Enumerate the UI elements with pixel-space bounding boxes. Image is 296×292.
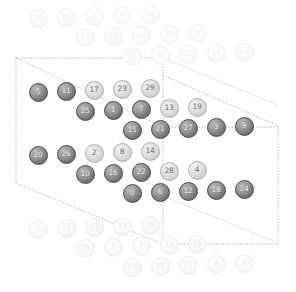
lattice-node-16: 16: [104, 164, 123, 183]
lattice-node-13: 13: [160, 236, 179, 255]
lattice-node-label: 26: [61, 13, 70, 20]
lattice-node-28: 28: [160, 25, 179, 44]
lattice-node-8: 8: [113, 143, 132, 162]
lattice-node-label: 13: [164, 104, 173, 112]
lattice-node-10: 10: [76, 28, 95, 47]
lattice-node-label: 10: [80, 33, 89, 41]
lattice-node-6: 6: [151, 183, 170, 202]
lattice-node-label: 0: [130, 189, 135, 197]
lattice-node-label: 15: [127, 126, 136, 134]
lattice-node-label: 23: [117, 222, 126, 230]
lattice-node-label: 22: [136, 168, 145, 176]
lattice-node-label: 24: [239, 185, 248, 193]
lattice-node-label: 28: [164, 167, 173, 175]
lattice-node-4: 4: [188, 161, 207, 180]
lattice-node-label: 29: [145, 221, 154, 229]
lattice-node-29: 29: [141, 216, 160, 235]
lattice-node-3: 3: [207, 118, 226, 137]
lattice-node-label: 14: [145, 147, 154, 155]
lattice-node-29: 29: [141, 79, 160, 98]
lattice-node-14: 14: [141, 142, 160, 161]
lattice-node-label: 3: [214, 260, 219, 268]
lattice-node-21: 21: [151, 120, 170, 139]
lattice-node-14: 14: [141, 5, 160, 24]
lattice-node-label: 5: [36, 225, 41, 233]
lattice-node-2: 2: [85, 144, 104, 163]
lattice-node-18: 18: [207, 44, 226, 63]
lattice-node-label: 8: [120, 11, 125, 18]
lattice-node-label: 24: [239, 48, 248, 56]
lattice-node-9: 9: [235, 254, 254, 273]
lattice-diagram-canvas: 2026281410162228406121824511172329251713…: [0, 0, 296, 292]
lattice-node-8: 8: [113, 6, 132, 25]
lattice-node-24: 24: [235, 180, 254, 199]
lattice-node-21: 21: [151, 257, 170, 276]
lattice-node-20: 20: [29, 146, 48, 165]
lattice-node-4: 4: [188, 24, 207, 43]
lattice-node-5: 5: [29, 220, 48, 239]
node-layer: 2026281410162228406121824511172329251713…: [0, 0, 296, 292]
lattice-node-label: 20: [33, 14, 42, 21]
lattice-node-label: 28: [164, 30, 173, 38]
lattice-node-label: 18: [211, 186, 220, 194]
lattice-node-label: 27: [183, 124, 192, 132]
lattice-node-label: 23: [117, 85, 126, 93]
lattice-node-label: 1: [111, 106, 116, 114]
lattice-node-19: 19: [188, 98, 207, 117]
lattice-node-11: 11: [57, 82, 76, 101]
lattice-node-label: 5: [36, 88, 41, 96]
lattice-node-20: 20: [29, 9, 48, 28]
lattice-node-17: 17: [85, 81, 104, 100]
lattice-node-22: 22: [132, 163, 151, 182]
lattice-node-19: 19: [188, 235, 207, 254]
lattice-node-label: 27: [183, 261, 192, 269]
lattice-node-label: 22: [136, 31, 145, 39]
lattice-node-label: 2: [92, 149, 97, 157]
lattice-node-label: 25: [80, 107, 89, 115]
lattice-node-label: 12: [183, 187, 192, 195]
lattice-node-6: 6: [151, 46, 170, 65]
lattice-node-label: 11: [61, 87, 70, 95]
lattice-node-label: 4: [195, 29, 200, 37]
lattice-node-label: 19: [192, 240, 201, 248]
lattice-node-label: 29: [145, 84, 154, 92]
lattice-node-label: 6: [158, 51, 163, 59]
lattice-node-24: 24: [235, 43, 254, 62]
lattice-node-12: 12: [179, 45, 198, 64]
lattice-node-label: 9: [242, 122, 247, 130]
lattice-node-15: 15: [123, 258, 142, 277]
lattice-node-label: 15: [127, 263, 136, 271]
lattice-node-27: 27: [179, 256, 198, 275]
lattice-node-label: 4: [195, 166, 200, 174]
lattice-node-label: 19: [192, 103, 201, 111]
lattice-node-label: 3: [214, 123, 219, 131]
lattice-node-17: 17: [85, 218, 104, 237]
lattice-node-1: 1: [104, 101, 123, 120]
lattice-node-16: 16: [104, 27, 123, 46]
lattice-node-5: 5: [29, 83, 48, 102]
lattice-node-label: 12: [183, 50, 192, 58]
lattice-node-25: 25: [76, 239, 95, 258]
lattice-node-label: 25: [80, 244, 89, 252]
lattice-node-26: 26: [57, 8, 76, 27]
lattice-node-label: 0: [130, 52, 135, 60]
lattice-node-18: 18: [207, 181, 226, 200]
lattice-node-2: 2: [85, 7, 104, 26]
lattice-node-label: 8: [120, 148, 125, 156]
lattice-node-label: 20: [33, 151, 42, 159]
lattice-node-22: 22: [132, 26, 151, 45]
lattice-node-label: 10: [80, 170, 89, 178]
lattice-node-23: 23: [113, 217, 132, 236]
lattice-node-label: 13: [164, 241, 173, 249]
lattice-node-15: 15: [123, 121, 142, 140]
lattice-node-label: 16: [108, 32, 117, 40]
lattice-node-label: 14: [145, 10, 154, 17]
lattice-node-27: 27: [179, 119, 198, 138]
lattice-node-label: 7: [139, 105, 144, 113]
lattice-node-13: 13: [160, 99, 179, 118]
lattice-node-label: 2: [92, 12, 97, 19]
lattice-node-12: 12: [179, 182, 198, 201]
lattice-node-7: 7: [132, 100, 151, 119]
lattice-node-10: 10: [76, 165, 95, 184]
lattice-node-11: 11: [57, 219, 76, 238]
